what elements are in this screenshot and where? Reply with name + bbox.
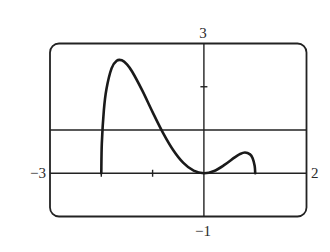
ymin-label: −1 [195,223,211,239]
ymax-label: 3 [199,25,207,41]
function-curve [101,60,255,173]
graph-window: −3 2 3 −1 [0,0,330,252]
xmin-label: −3 [30,165,46,181]
xmax-label: 2 [311,165,319,181]
